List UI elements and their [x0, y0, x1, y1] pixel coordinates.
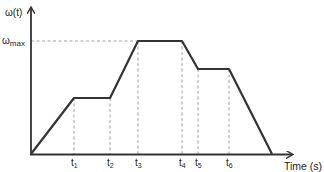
velocity-profile-line	[31, 41, 272, 154]
tick-label-t6: t6	[226, 157, 233, 169]
tick-label-t3: t3	[135, 157, 142, 169]
x-axis-label: Time (s)	[284, 160, 322, 172]
angular-velocity-profile-chart: ω(t) ωmax t1 t2 t3 t4 t5 t6 Time (s)	[0, 0, 324, 172]
x-tick-labels: t1 t2 t3 t4 t5 t6	[71, 157, 233, 169]
tick-label-t2: t2	[107, 157, 114, 169]
tick-label-t5: t5	[195, 157, 202, 169]
omega-max-label: ωmax	[2, 35, 25, 48]
tick-label-t4: t4	[179, 157, 186, 169]
tick-label-t1: t1	[71, 157, 78, 169]
y-axis-label: ω(t)	[5, 7, 22, 18]
